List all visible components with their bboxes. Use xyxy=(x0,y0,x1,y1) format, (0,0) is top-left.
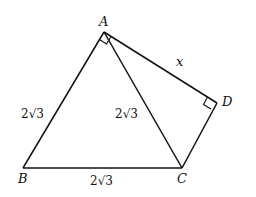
segment-cd xyxy=(182,103,217,168)
segment-ad xyxy=(104,32,217,103)
segment-ac xyxy=(104,32,182,168)
length-ab: 2√3 xyxy=(21,107,44,121)
length-bc: 2√3 xyxy=(90,174,113,188)
length-ac: 2√3 xyxy=(115,107,138,121)
geometry-diagram: A B C D 2√3 2√3 2√3 x xyxy=(0,0,256,197)
label-b: B xyxy=(17,171,28,186)
length-ad: x xyxy=(176,54,184,69)
label-c: C xyxy=(177,171,187,186)
label-d: D xyxy=(221,94,233,109)
segment-ab xyxy=(23,32,104,168)
label-a: A xyxy=(98,14,108,29)
